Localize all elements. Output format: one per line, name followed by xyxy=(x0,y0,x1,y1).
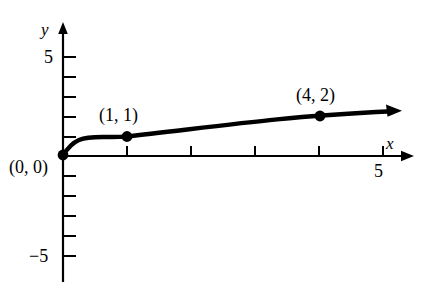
point-label-four-two: (4, 2) xyxy=(296,86,335,104)
y-axis-arrowhead xyxy=(58,22,68,34)
x-axis-label: x xyxy=(386,135,394,152)
x-tick-label-5: 5 xyxy=(374,162,383,180)
curve-arrowhead xyxy=(386,105,402,117)
x-axis-ticks xyxy=(127,146,383,156)
data-point-four-two xyxy=(315,111,326,122)
square-root-function-figure: y x 5 −5 5 (0, 0) (1, 1) (4, 2) xyxy=(0,0,424,298)
y-axis-label: y xyxy=(41,21,49,38)
data-point-one-one xyxy=(122,131,133,142)
y-tick-label-negative-5: −5 xyxy=(29,247,48,265)
point-label-origin: (0, 0) xyxy=(9,158,48,176)
data-point-origin xyxy=(58,150,69,161)
point-label-one-one: (1, 1) xyxy=(99,106,138,124)
plot-canvas xyxy=(0,0,424,298)
x-axis-arrowhead xyxy=(401,151,414,161)
y-tick-label-5: 5 xyxy=(44,48,53,66)
